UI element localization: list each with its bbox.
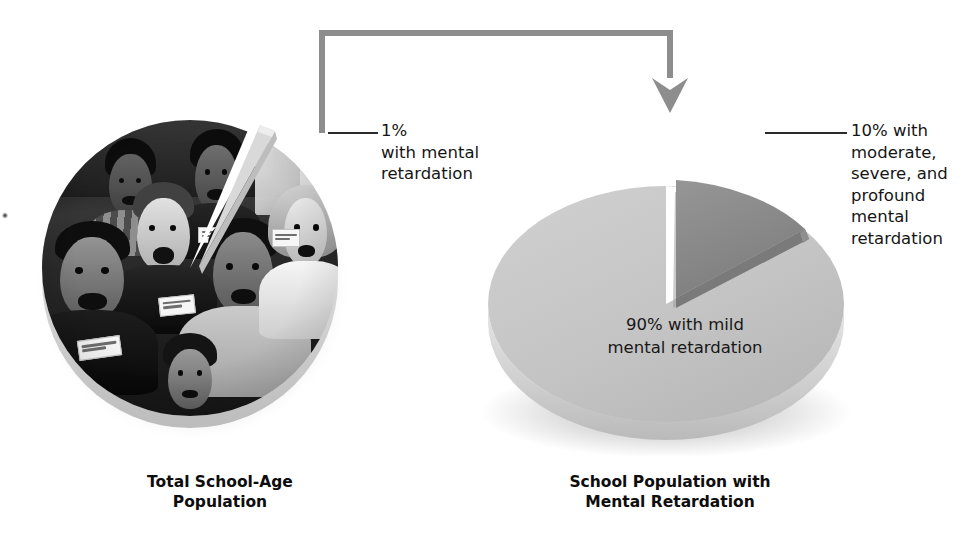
left-caption-line2: Population bbox=[70, 492, 370, 512]
right-caption-line2: Mental Retardation bbox=[500, 492, 840, 512]
figure-canvas: 1% with mental retardation bbox=[0, 0, 980, 554]
right-pie-caption: School Population with Mental Retardatio… bbox=[500, 472, 840, 512]
right-pie-chart bbox=[470, 96, 870, 456]
page-edge-artifact bbox=[2, 212, 8, 219]
left-pie-caption: Total School-Age Population bbox=[70, 472, 370, 512]
right-caption-line1: School Population with bbox=[500, 472, 840, 492]
right-callout-line3: severe, and bbox=[851, 163, 979, 185]
right-leader-line bbox=[765, 132, 847, 134]
right-callout-line5: mental bbox=[851, 206, 979, 228]
right-callout-line1: 10% with bbox=[851, 120, 979, 142]
left-pie-exploded-slice bbox=[34, 104, 352, 456]
right-callout-label: 10% with moderate, severe, and profound … bbox=[851, 120, 979, 249]
left-leader-line bbox=[328, 132, 378, 134]
right-callout-line6: retardation bbox=[851, 228, 979, 250]
right-callout-line2: moderate, bbox=[851, 142, 979, 164]
right-center-line2: mental retardation bbox=[540, 336, 830, 359]
right-center-line1: 90% with mild bbox=[540, 313, 830, 336]
right-callout-line4: profound bbox=[851, 185, 979, 207]
left-caption-line1: Total School-Age bbox=[70, 472, 370, 492]
right-pie-center-label: 90% with mild mental retardation bbox=[540, 313, 830, 359]
left-pie-chart bbox=[34, 104, 352, 456]
